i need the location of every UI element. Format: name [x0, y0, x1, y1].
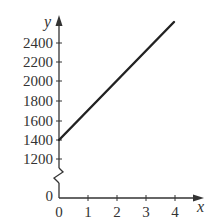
- y-tick-label: 2400: [23, 35, 53, 51]
- data-line: [59, 22, 174, 140]
- y-tick-label: 1400: [23, 132, 53, 148]
- y-axis: [54, 24, 63, 198]
- line-chart: 2400 2200 2000 1800 1600 1400 1200 0 0 1…: [0, 0, 215, 220]
- y-tick-label: 2000: [23, 73, 53, 89]
- x-tick-label: 0: [55, 204, 63, 220]
- x-tick-label: 2: [113, 204, 121, 220]
- x-tick-labels: 0 1 2 3 4: [55, 204, 179, 220]
- y-axis-arrow-icon: [56, 15, 63, 26]
- y-tick-label: 1600: [23, 113, 53, 129]
- x-tick-label: 1: [84, 204, 92, 220]
- y-tick-label: 1200: [23, 151, 53, 167]
- y-tick-label-zero: 0: [46, 188, 54, 204]
- x-tick-label: 3: [142, 204, 150, 220]
- x-tick-label: 4: [171, 204, 179, 220]
- y-tick-label: 1800: [23, 93, 53, 109]
- y-axis-label: y: [42, 13, 52, 31]
- y-tick-labels: 2400 2200 2000 1800 1600 1400 1200 0: [23, 35, 53, 204]
- y-tick-label: 2200: [23, 54, 53, 70]
- x-axis-label: x: [196, 198, 204, 215]
